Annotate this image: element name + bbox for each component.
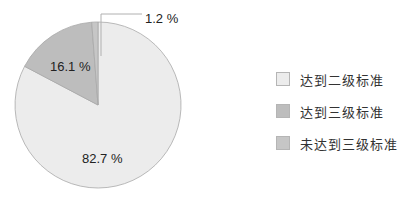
legend: 达到二级标准 达到三级标准 未达到三级标准: [276, 63, 398, 159]
label-82-7: 82.7 %: [82, 151, 123, 166]
label-1-2: 1.2 %: [145, 11, 179, 26]
legend-label: 达到二级标准: [300, 70, 384, 89]
legend-label: 未达到三级标准: [300, 134, 398, 153]
legend-item-level3: 达到三级标准: [276, 95, 398, 127]
legend-swatch: [276, 104, 290, 118]
legend-swatch: [276, 72, 290, 86]
legend-label: 达到三级标准: [300, 102, 384, 121]
legend-item-below-level3: 未达到三级标准: [276, 127, 398, 159]
label-16-1: 16.1 %: [50, 59, 91, 74]
legend-item-level2: 达到二级标准: [276, 63, 398, 95]
legend-swatch: [276, 136, 290, 150]
